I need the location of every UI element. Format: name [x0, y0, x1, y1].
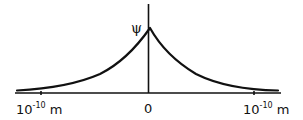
wavefunction-figure: ψ 10-10 m 0 10-10 m: [0, 0, 303, 120]
x-label-left-exponent: -10: [33, 101, 46, 110]
x-label-left-unit: m: [50, 102, 63, 117]
psi-label: ψ: [131, 21, 142, 35]
x-label-origin: 0: [144, 102, 152, 115]
wavefunction-curve: [17, 28, 278, 91]
x-label-right-base: 10: [243, 102, 260, 117]
x-label-right-exponent: -10: [260, 101, 273, 110]
x-label-right: 10-10 m: [243, 102, 289, 116]
x-label-left: 10-10 m: [16, 102, 62, 116]
x-label-right-unit: m: [277, 102, 290, 117]
x-label-left-base: 10: [16, 102, 33, 117]
